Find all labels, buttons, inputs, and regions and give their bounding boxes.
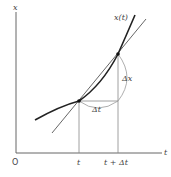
curve-x-of-t [35,15,135,120]
point-t-plus-dt [116,52,120,56]
curve-label: x(t) [114,13,128,22]
dx-label: Δx [121,74,133,83]
tick-t-label: t [77,158,81,167]
origin-label: O [12,158,18,167]
y-axis-label: x [13,3,18,12]
point-t [77,99,81,103]
tick-t-plus-dt-label: t + Δt [104,158,129,167]
derivative-diagram: x t O x(t) t t + Δt Δx Δt [0,0,171,177]
x-axis-label: t [164,148,168,157]
dt-label: Δt [91,105,102,114]
